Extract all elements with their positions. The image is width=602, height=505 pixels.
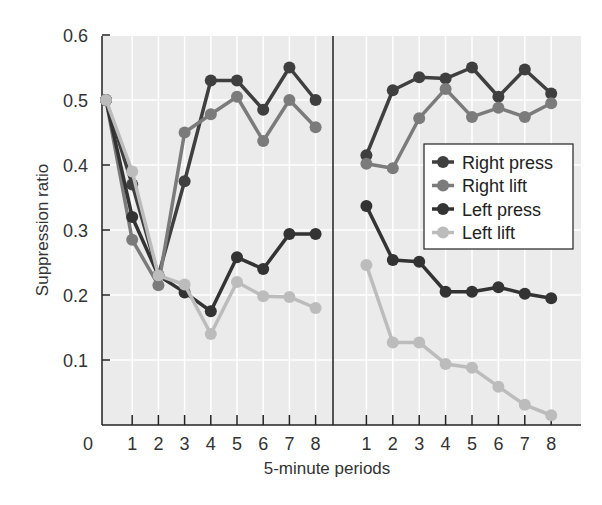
data-point <box>257 135 269 147</box>
data-point <box>126 234 138 246</box>
x-tick-label: 8 <box>546 434 556 454</box>
data-point <box>310 302 322 314</box>
data-point <box>545 292 557 304</box>
data-point <box>519 111 531 123</box>
data-point <box>179 127 191 139</box>
legend-marker <box>437 227 449 239</box>
legend-marker <box>437 156 449 168</box>
data-point <box>519 288 531 300</box>
data-point <box>205 305 217 317</box>
data-point <box>492 91 504 103</box>
data-point <box>466 286 478 298</box>
origin-label: 0 <box>83 434 93 454</box>
x-tick-label: 3 <box>414 434 424 454</box>
y-tick-label: 0.2 <box>63 286 88 306</box>
data-point <box>310 121 322 133</box>
legend-label: Right press <box>462 153 553 173</box>
suppression-ratio-chart: 0.10.20.30.40.50.601234567812345678 5-mi… <box>0 0 602 505</box>
y-tick-label: 0.3 <box>63 221 88 241</box>
legend-label: Left lift <box>462 223 515 243</box>
legend-marker <box>437 203 449 215</box>
legend-marker <box>437 180 449 192</box>
x-tick-label: 8 <box>311 434 321 454</box>
data-point <box>413 256 425 268</box>
data-point <box>360 259 372 271</box>
data-point <box>492 102 504 114</box>
data-point <box>413 336 425 348</box>
data-point <box>492 281 504 293</box>
data-point <box>179 279 191 291</box>
data-point <box>466 111 478 123</box>
x-tick-label: 7 <box>284 434 294 454</box>
data-point <box>257 263 269 275</box>
data-point <box>257 290 269 302</box>
x-tick-label: 6 <box>493 434 503 454</box>
data-point <box>360 200 372 212</box>
data-point <box>387 336 399 348</box>
data-point <box>205 75 217 87</box>
x-tick-label: 6 <box>258 434 268 454</box>
data-point <box>231 276 243 288</box>
y-tick-label: 0.6 <box>63 26 88 46</box>
data-point <box>387 254 399 266</box>
data-point <box>440 286 452 298</box>
data-point <box>283 62 295 74</box>
data-point <box>545 409 557 421</box>
x-tick-label: 3 <box>180 434 190 454</box>
data-point <box>257 104 269 116</box>
data-point <box>440 358 452 370</box>
data-point <box>231 91 243 103</box>
x-axis-title: 5-minute periods <box>264 459 391 478</box>
data-point <box>310 94 322 106</box>
data-point <box>492 381 504 393</box>
legend-label: Left press <box>462 200 541 220</box>
data-point <box>519 63 531 75</box>
legend-label: Right lift <box>462 176 527 196</box>
x-tick-label: 1 <box>127 434 137 454</box>
data-point <box>126 166 138 178</box>
data-point <box>126 211 138 223</box>
data-point <box>519 399 531 411</box>
data-point <box>179 175 191 187</box>
y-tick-label: 0.1 <box>63 351 88 371</box>
data-point <box>283 94 295 106</box>
data-point <box>387 84 399 96</box>
data-point <box>466 362 478 374</box>
data-point <box>545 97 557 109</box>
data-point <box>231 251 243 263</box>
data-point <box>466 62 478 74</box>
data-point <box>205 328 217 340</box>
data-point <box>310 228 322 240</box>
x-tick-label: 2 <box>153 434 163 454</box>
data-point <box>283 228 295 240</box>
x-tick-label: 5 <box>232 434 242 454</box>
data-point <box>360 158 372 170</box>
x-tick-label: 4 <box>441 434 451 454</box>
x-tick-label: 1 <box>361 434 371 454</box>
data-point <box>283 291 295 303</box>
data-point <box>100 94 112 106</box>
data-point <box>387 162 399 174</box>
data-point <box>413 112 425 124</box>
data-point <box>413 71 425 83</box>
data-point <box>231 75 243 87</box>
x-tick-label: 2 <box>388 434 398 454</box>
y-axis-title: Suppression ratio <box>33 164 52 296</box>
data-point <box>440 83 452 95</box>
data-point <box>205 108 217 120</box>
data-point <box>152 270 164 282</box>
x-tick-label: 4 <box>206 434 216 454</box>
data-point <box>440 73 452 85</box>
x-tick-label: 5 <box>467 434 477 454</box>
x-tick-label: 7 <box>520 434 530 454</box>
legend: Right pressRight liftLeft pressLeft lift <box>424 144 573 249</box>
y-tick-label: 0.5 <box>63 91 88 111</box>
y-tick-label: 0.4 <box>63 156 88 176</box>
